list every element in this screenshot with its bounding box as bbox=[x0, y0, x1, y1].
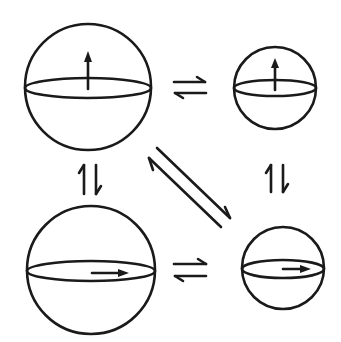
equilibrium-arrows-diagonal bbox=[149, 148, 230, 227]
diagram-canvas bbox=[0, 0, 341, 342]
equilibrium-arrows-left bbox=[79, 165, 101, 194]
sphere-small-vertical bbox=[234, 47, 316, 129]
sphere-large-horizontal bbox=[27, 206, 155, 334]
sphere-large-vertical bbox=[25, 24, 151, 150]
equilibrium-arrows-right bbox=[266, 165, 288, 192]
equilibrium-arrows-bottom bbox=[174, 259, 206, 281]
sphere-small-horizontal bbox=[242, 227, 324, 309]
equilibrium-arrows-top bbox=[174, 77, 206, 98]
